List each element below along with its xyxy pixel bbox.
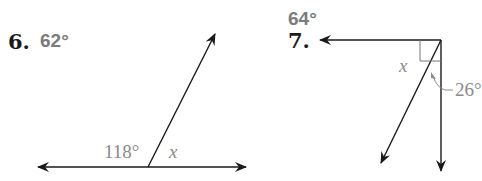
problem-6-number: 6. [8,29,30,54]
problem-7-answer: 64° [288,8,317,30]
problem-6-angle-label-x: x [169,141,177,163]
right-angle-marker [420,40,441,61]
angle-26-leader [433,76,453,90]
problem-7-angle-label-26: 26° [455,79,482,101]
ray-diagonal [381,40,441,163]
problem-6-angle-label-118: 118° [104,141,139,163]
figures-canvas [0,0,482,181]
problem-6-answer: 62° [40,30,69,52]
angle-26-leader-arrowhead [431,72,436,79]
problem-7-angle-label-x: x [399,55,407,77]
figure-7 [320,40,453,171]
ray-up [148,34,215,167]
problem-7-number: 7. [288,28,310,53]
figure-6 [38,34,246,167]
